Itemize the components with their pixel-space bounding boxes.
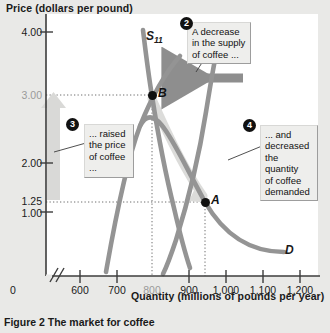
x-axis-break-icon (46, 268, 64, 282)
annotation-4-line-1: ... and (265, 129, 313, 140)
annotation-badge-2: 2 (180, 17, 193, 30)
annotation-3-line-3: of coffee ... (89, 151, 129, 174)
annotation-3-line-2: the price (89, 139, 129, 150)
equilibrium-point-a (201, 198, 210, 207)
leader-line-4 (228, 146, 262, 160)
annotation-2-line-1: A decrease (192, 26, 246, 37)
curve-label-s11-text: S (146, 29, 154, 43)
curve-label-d: D (285, 243, 294, 257)
point-label-a: A (211, 193, 220, 207)
annotation-callout-2: A decrease in the supply of coffee ... (187, 22, 251, 64)
annotation-3-line-1: ... raised (89, 128, 129, 139)
curve-label-s11: S11 (146, 29, 163, 45)
annotation-4-line-4: of coffee (265, 175, 313, 186)
annotation-2-line-2: in the supply (192, 37, 246, 48)
annotation-4-line-2: decreased (265, 140, 313, 151)
equilibrium-point-b (148, 91, 157, 100)
curve-label-d-text: D (285, 243, 294, 257)
supply-curve-s11 (143, 30, 190, 268)
annotation-2-line-3: of coffee ... (192, 49, 246, 60)
annotation-callout-3: ... raised the price of coffee ... (84, 124, 134, 178)
curve-label-s11-sub: 11 (154, 35, 163, 45)
point-label-b: B (158, 86, 167, 100)
annotation-4-line-5: demanded (265, 186, 313, 197)
annotation-badge-3: 3 (66, 118, 79, 131)
annotation-badge-4: 4 (243, 119, 256, 132)
figure-container: Price (dollars per pound) Quantity (mill… (0, 0, 330, 333)
annotation-4-line-3: the quantity (265, 152, 313, 175)
annotation-callout-4: ... and decreased the quantity of coffee… (260, 125, 318, 201)
price-rise-arrow (41, 92, 66, 200)
